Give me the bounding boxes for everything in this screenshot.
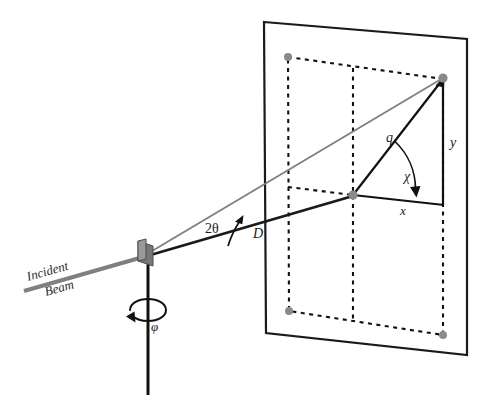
active-area-corner-marker-bottom-left <box>285 307 293 315</box>
sample-plate-edge <box>138 239 146 261</box>
two-theta-label: 2θ <box>205 221 219 236</box>
detector-plane <box>264 22 467 355</box>
scattering-spot-marker <box>438 73 447 82</box>
two-theta-arrowhead-icon <box>235 215 244 224</box>
active-area-corner-marker-top-left <box>284 53 292 61</box>
beam-center-marker <box>348 190 357 199</box>
incident-beam-label-line2: Beam <box>43 277 76 299</box>
active-area-corner-marker-bottom-right <box>439 331 447 339</box>
x-axis-label: x <box>399 203 406 218</box>
y-axis-label: y <box>448 135 457 150</box>
q-vector-label: q <box>386 130 393 145</box>
distance-label: D <box>252 226 263 241</box>
scattering-geometry-diagram: Incident Beam φ 2θ D q χ x y <box>0 0 489 407</box>
two-theta-angle-arc <box>228 222 240 247</box>
chi-label: χ <box>402 169 411 184</box>
diagram-canvas: Incident Beam φ 2θ D q χ x y <box>0 0 489 407</box>
phi-arrowhead-icon <box>126 312 136 323</box>
phi-label: φ <box>151 319 158 334</box>
